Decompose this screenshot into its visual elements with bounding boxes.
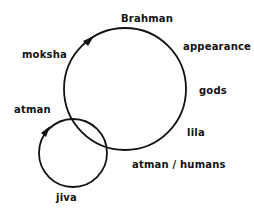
label-gods: gods <box>199 86 227 96</box>
jiva-circle <box>39 119 107 187</box>
label-atman-humans: atman / humans <box>132 160 226 170</box>
label-appearance: appearance <box>183 42 251 52</box>
label-jiva: jiva <box>56 193 77 203</box>
label-brahman: Brahman <box>121 14 173 24</box>
brahman-circle <box>64 28 186 150</box>
moksha-arrow-icon <box>83 36 94 46</box>
label-moksha: moksha <box>22 50 67 60</box>
label-lila: lila <box>187 128 205 138</box>
label-atman: atman <box>14 105 51 115</box>
atman-arrow-icon <box>41 126 50 137</box>
